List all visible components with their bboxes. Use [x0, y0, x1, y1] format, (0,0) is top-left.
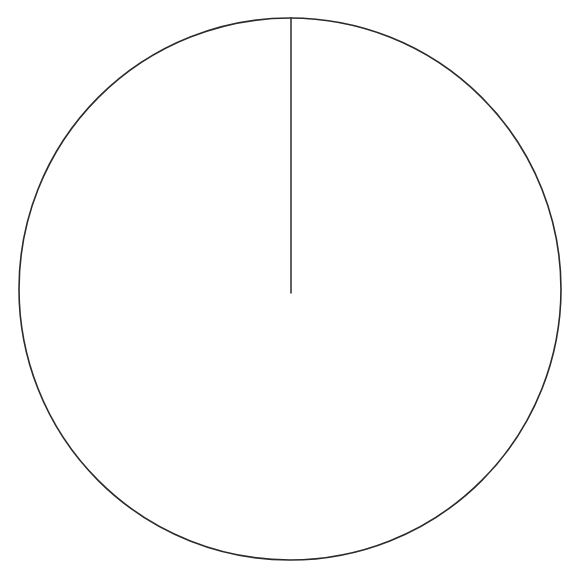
figure-canvas — [0, 0, 583, 583]
circle-diagram-svg — [0, 0, 583, 583]
